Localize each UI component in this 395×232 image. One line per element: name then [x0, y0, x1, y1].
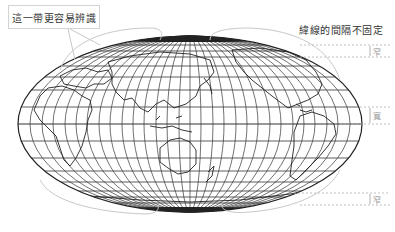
- parallels: [0, 40, 395, 208]
- callout-label: 這一帶更容易辨識: [8, 5, 100, 29]
- map-figure: 這一帶更容易辨識 緯線的間隔不固定 窄 寬 窄: [0, 0, 395, 232]
- band-label-middle-wide: 寬: [373, 110, 381, 121]
- parallel-spacing-note: 緯線的間隔不固定: [299, 22, 383, 37]
- band-label-top-narrow: 窄: [373, 46, 381, 57]
- australia-outline: [160, 138, 196, 174]
- caribbean-outline: [296, 104, 312, 112]
- callout-text: 這一帶更容易辨識: [12, 10, 96, 25]
- europe-outline: [60, 68, 112, 88]
- band-label-bottom-narrow: 窄: [373, 194, 381, 205]
- continents: [34, 48, 336, 202]
- africa-outline: [34, 86, 92, 166]
